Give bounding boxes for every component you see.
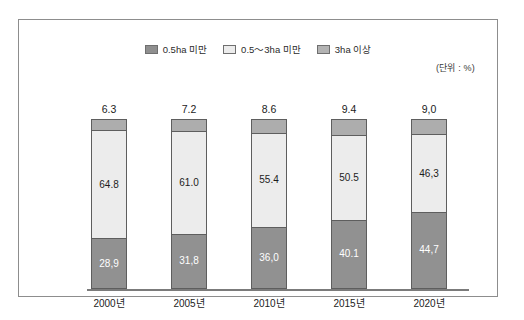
bar-mid-label-1: 61.0 [179,178,198,188]
stacked-bar-2: 55.4 36,0 [251,119,287,289]
legend-swatch-icon-0 [145,45,158,54]
x-axis-tick-4: 2020년 [411,295,447,310]
bar-mid-label-0: 64.8 [99,180,118,190]
bar-bottom-label-1: 31,8 [179,256,198,266]
bar-bottom-label-4: 44,7 [419,245,438,255]
x-axis-labels: 2000년 2005년 2010년 2015년 2020년 [69,295,469,310]
bar-segment-top-3 [332,120,366,136]
bar-bottom-label-2: 36,0 [259,253,278,263]
bar-segment-mid-1: 61.0 [172,132,206,234]
bar-segment-mid-4: 46,3 [412,135,446,213]
stacked-bar-4: 46,3 44,7 [411,119,447,289]
x-axis-tick-1: 2005년 [171,295,207,310]
chart-frame: 0.5ha 미만 0.5～3ha 미만 3ha 이상 (단위 : %) 6.3 [18,19,498,297]
legend-swatch-icon-1 [223,45,236,54]
legend-label-0: 0.5ha 미만 [163,42,207,56]
bar-segment-mid-3: 50.5 [332,136,366,221]
x-axis-tick-2: 2010년 [251,295,287,310]
bar-segment-bottom-4: 44,7 [412,213,446,288]
plot-area: 6.3 64.8 28,9 7.2 [69,80,469,291]
bar-top-label-3: 9.4 [342,103,357,115]
bar-segment-bottom-2: 36,0 [252,228,286,288]
x-axis-line [87,289,469,291]
bar-top-label-1: 7.2 [182,103,197,115]
x-axis-tick-0: 2000년 [91,295,127,310]
bar-top-label-0: 6.3 [102,103,117,115]
bar-segment-mid-0: 64.8 [92,131,126,240]
bar-group-0: 6.3 64.8 28,9 [91,80,127,289]
x-axis-tick-3: 2015년 [331,295,367,310]
bar-bottom-label-0: 28,9 [99,259,118,269]
bar-top-label-2: 8.6 [262,103,277,115]
bar-group-2: 8.6 55.4 36,0 [251,80,287,289]
legend-swatch-icon-2 [317,45,330,54]
legend-item-1: 0.5～3ha 미만 [223,42,301,56]
stacked-bar-3: 50.5 40.1 [331,119,367,289]
legend-label-2: 3ha 이상 [335,42,372,56]
stacked-bar-1: 61.0 31,8 [171,119,207,289]
bar-segment-mid-2: 55.4 [252,134,286,227]
legend-item-0: 0.5ha 미만 [145,42,207,56]
bar-bottom-label-3: 40.1 [339,249,358,259]
stacked-bar-0: 64.8 28,9 [91,119,127,289]
unit-note: (단위 : %) [436,61,475,74]
bar-segment-top-2 [252,120,286,134]
bar-mid-label-2: 55.4 [259,175,278,185]
bar-segment-bottom-1: 31,8 [172,235,206,288]
legend-label-1: 0.5～3ha 미만 [241,42,301,56]
bar-segment-bottom-0: 28,9 [92,239,126,288]
bar-series-container: 6.3 64.8 28,9 7.2 [69,80,469,289]
bar-segment-top-1 [172,120,206,132]
legend-item-2: 3ha 이상 [317,42,372,56]
bar-group-4: 9,0 46,3 44,7 [411,80,447,289]
bar-mid-label-3: 50.5 [339,173,358,183]
bar-top-label-4: 9,0 [422,103,437,115]
bar-group-3: 9.4 50.5 40.1 [331,80,367,289]
bar-segment-top-0 [92,120,126,131]
bar-mid-label-4: 46,3 [419,169,438,179]
chart-screenshot: 0.5ha 미만 0.5～3ha 미만 3ha 이상 (단위 : %) 6.3 [0,0,524,320]
bar-segment-top-4 [412,120,446,135]
bar-segment-bottom-3: 40.1 [332,221,366,288]
chart-legend: 0.5ha 미만 0.5～3ha 미만 3ha 이상 [19,42,497,56]
bar-group-1: 7.2 61.0 31,8 [171,80,207,289]
